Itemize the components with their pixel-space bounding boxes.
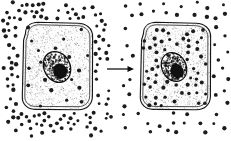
figure-canvas bbox=[0, 0, 231, 141]
diffusion-diagram-figure bbox=[0, 0, 231, 141]
